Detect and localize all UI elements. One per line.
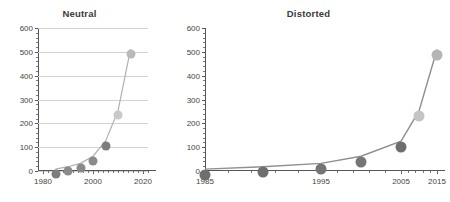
data-point-marker xyxy=(51,169,60,178)
data-point-marker xyxy=(316,163,327,174)
y-axis-label: 100 xyxy=(187,143,200,152)
chart-panel-neutral: Neutral 0100200300400500600198020002020 xyxy=(0,0,175,202)
plot-area-neutral: 0100200300400500600198020002020 xyxy=(38,28,148,171)
data-point-marker xyxy=(258,167,269,178)
y-axis-label: 0 xyxy=(29,167,33,176)
y-axis-label: 300 xyxy=(20,95,33,104)
data-point-marker xyxy=(101,141,110,150)
plot-area-distorted: 01002003004005006001985199520052015 xyxy=(205,28,437,171)
y-axis-label: 400 xyxy=(20,71,33,80)
chart-title-neutral: Neutral xyxy=(0,8,167,19)
y-axis-label: 500 xyxy=(187,47,200,56)
data-point-marker xyxy=(64,167,73,176)
y-axis-label: 600 xyxy=(20,24,33,33)
y-axis-label: 200 xyxy=(20,119,33,128)
series-line xyxy=(205,28,450,181)
data-point-marker xyxy=(126,49,135,58)
y-axis-label: 200 xyxy=(187,119,200,128)
data-point-marker xyxy=(356,156,367,167)
data-point-marker xyxy=(432,49,443,60)
data-point-marker xyxy=(76,163,85,172)
y-axis-label: 300 xyxy=(187,95,200,104)
y-axis-label: 600 xyxy=(187,24,200,33)
y-axis-label: 100 xyxy=(20,143,33,152)
data-point-marker xyxy=(200,169,211,180)
series-line xyxy=(38,28,168,181)
y-axis-label: 500 xyxy=(20,47,33,56)
chart-panel-distorted: Distorted 010020030040050060019851995200… xyxy=(175,0,450,202)
chart-title-distorted: Distorted xyxy=(171,8,446,19)
chart-figure: Neutral 0100200300400500600198020002020 … xyxy=(0,0,450,202)
y-axis-label: 400 xyxy=(187,71,200,80)
data-point-marker xyxy=(89,156,98,165)
data-point-marker xyxy=(396,141,407,152)
data-point-marker xyxy=(414,111,425,122)
data-point-marker xyxy=(114,111,123,120)
